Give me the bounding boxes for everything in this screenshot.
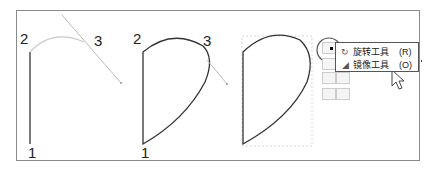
flyout-indicator	[421, 60, 422, 62]
menu-item-shortcut: (R)	[399, 47, 412, 57]
rotate-tool-button[interactable]	[322, 42, 336, 54]
label-point-3: 3	[94, 32, 102, 49]
menu-item-reflect-tool[interactable]: ◢ 镜像工具 (O)	[340, 58, 412, 71]
label-point-1: 1	[28, 144, 36, 161]
label-point-1: 1	[141, 144, 149, 161]
label-point-2: 2	[20, 30, 28, 47]
label-point-3: 3	[203, 32, 211, 49]
panel-3-path	[242, 35, 312, 146]
tool-button[interactable]	[336, 88, 350, 100]
tool-button[interactable]	[336, 72, 350, 84]
tool-button[interactable]	[322, 58, 336, 70]
menu-item-shortcut: (O)	[399, 60, 412, 70]
selected-bullet-icon	[330, 47, 333, 50]
reflect-icon: ◢	[340, 60, 350, 70]
drawing-canvas	[0, 0, 437, 171]
cursor-icon	[392, 70, 404, 89]
tool-flyout-menu: ↻ 旋转工具 (R) ◢ 镜像工具 (O)	[335, 42, 419, 72]
rotate-icon: ↻	[340, 47, 350, 57]
menu-item-rotate-tool[interactable]: ↻ 旋转工具 (R)	[340, 45, 412, 58]
menu-item-label: 镜像工具	[353, 58, 389, 71]
menu-item-label: 旋转工具	[353, 45, 389, 58]
tool-button[interactable]	[322, 88, 336, 100]
panel-2-path	[143, 38, 228, 144]
label-point-2: 2	[133, 30, 141, 47]
panel-1-path	[30, 15, 122, 144]
tool-button[interactable]	[322, 72, 336, 84]
